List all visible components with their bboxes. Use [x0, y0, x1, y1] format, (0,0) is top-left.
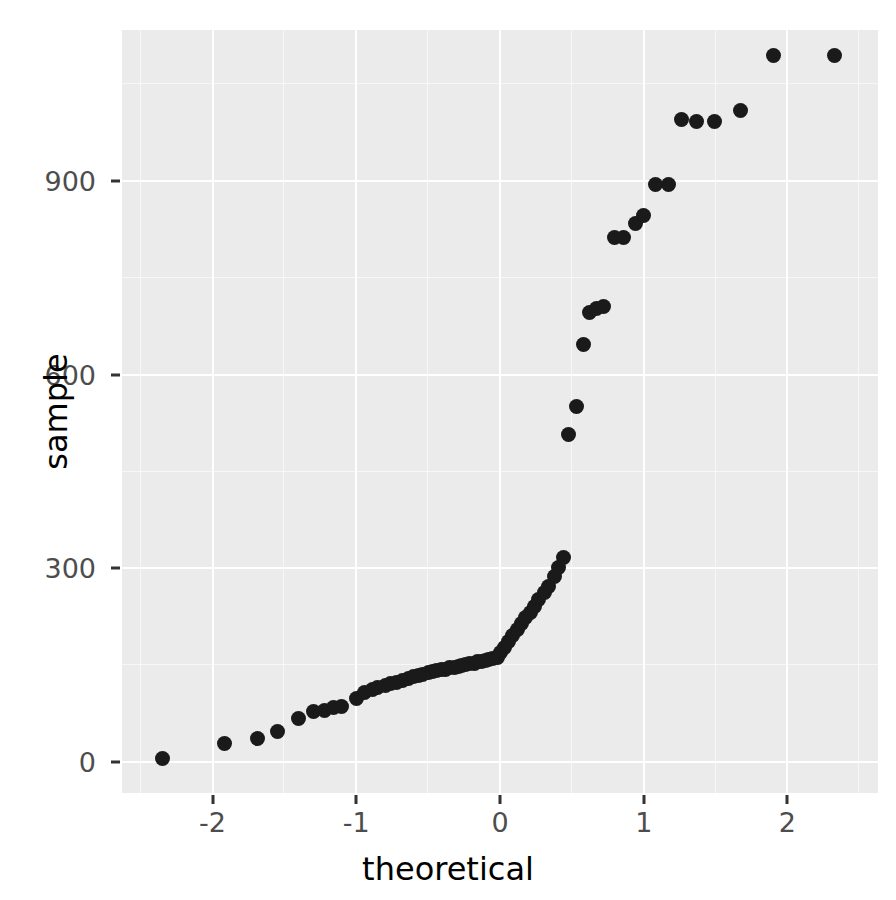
qq-plot-figure: 0300600900 -2-1012 sample theoretical	[0, 0, 896, 900]
x-axis: -2-1012	[0, 0, 896, 900]
x-tick-mark	[355, 795, 358, 804]
x-tick-mark	[642, 795, 645, 804]
x-tick-mark	[786, 795, 789, 804]
x-tick-label: -1	[343, 809, 370, 836]
x-tick-label: 0	[491, 809, 508, 836]
y-axis-title: sample	[40, 353, 72, 469]
x-tick-mark	[499, 795, 502, 804]
x-tick-label: 2	[779, 809, 796, 836]
x-tick-label: 1	[635, 809, 652, 836]
x-axis-title: theoretical	[0, 853, 896, 885]
x-tick-mark	[211, 795, 214, 804]
x-tick-label: -2	[199, 809, 226, 836]
